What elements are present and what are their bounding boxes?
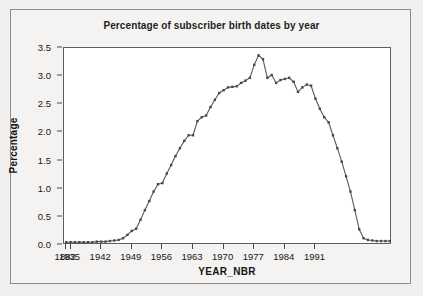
- x-axis-tick-label: 1977: [243, 251, 264, 262]
- x-axis-tick-mark: [65, 244, 66, 249]
- x-axis-tick-label: 1991: [304, 251, 325, 262]
- series-marker: [201, 116, 203, 118]
- x-axis: 1882193519421949195619631970197719841991: [63, 244, 391, 266]
- y-axis-tick-label: 0.0: [38, 239, 51, 250]
- y-axis-tick-label: 3.0: [38, 70, 51, 81]
- y-axis-tick-label: 1.5: [38, 154, 51, 165]
- y-axis-tick-mark: [57, 244, 62, 245]
- series-marker: [131, 230, 133, 232]
- y-axis-tick-mark: [57, 215, 62, 216]
- series-marker: [152, 190, 154, 192]
- series-marker: [288, 77, 290, 79]
- chart-page: Percentage of subscriber birth dates by …: [0, 0, 423, 296]
- y-axis-tick-label: 0.5: [38, 210, 51, 221]
- series-plot: [64, 48, 392, 245]
- series-marker: [297, 91, 299, 93]
- x-axis-tick-mark: [161, 244, 162, 249]
- series-marker: [354, 209, 356, 211]
- series-marker: [375, 240, 377, 242]
- y-axis-tick-label: 2.0: [38, 126, 51, 137]
- x-axis-tick-mark: [100, 244, 101, 249]
- x-axis-tick-label: 1984: [273, 251, 294, 262]
- series-marker: [249, 77, 251, 79]
- x-axis-tick-mark: [192, 244, 193, 249]
- series-marker: [367, 239, 369, 241]
- series-marker: [262, 58, 264, 60]
- y-axis-tick-mark: [57, 103, 62, 104]
- chart-title: Percentage of subscriber birth dates by …: [0, 20, 423, 31]
- series-marker: [236, 85, 238, 87]
- x-axis-tick-mark: [314, 244, 315, 249]
- y-axis-tick-mark: [57, 187, 62, 188]
- series-marker: [323, 116, 325, 118]
- series-marker: [389, 240, 391, 242]
- series-marker: [306, 83, 308, 85]
- series-marker: [122, 237, 124, 239]
- series-marker: [100, 240, 102, 242]
- series-marker: [244, 79, 246, 81]
- series-marker: [214, 99, 216, 101]
- series-marker: [144, 209, 146, 211]
- plot-area: [63, 47, 391, 244]
- x-axis-title: YEAR_NBR: [63, 266, 391, 277]
- x-axis-tick-mark: [284, 244, 285, 249]
- x-axis-tick-label: 1942: [90, 251, 111, 262]
- series-marker: [170, 164, 172, 166]
- series-marker: [139, 218, 141, 220]
- series-marker: [196, 120, 198, 122]
- series-marker: [349, 190, 351, 192]
- series-marker: [336, 147, 338, 149]
- series-line: [66, 55, 390, 242]
- series-marker: [319, 108, 321, 110]
- series-marker: [240, 82, 242, 84]
- series-marker: [362, 237, 364, 239]
- series-marker: [148, 200, 150, 202]
- x-axis-tick-label: 1935: [59, 251, 80, 262]
- x-axis-tick-label: 1963: [181, 251, 202, 262]
- series-marker: [271, 74, 273, 76]
- series-marker: [117, 239, 119, 241]
- y-axis-tick-label: 1.0: [38, 182, 51, 193]
- series-marker: [380, 240, 382, 242]
- series-marker: [310, 85, 312, 87]
- series-marker: [104, 240, 106, 242]
- series-marker: [275, 82, 277, 84]
- series-marker: [284, 78, 286, 80]
- series-marker: [187, 134, 189, 136]
- x-axis-tick-mark: [131, 244, 132, 249]
- series-marker: [126, 234, 128, 236]
- series-marker: [257, 54, 259, 56]
- series-marker: [218, 92, 220, 94]
- series-marker: [209, 106, 211, 108]
- series-marker: [253, 64, 255, 66]
- series-marker: [192, 134, 194, 136]
- series-marker: [109, 240, 111, 242]
- series-marker: [301, 86, 303, 88]
- y-axis-tick-label: 3.5: [38, 42, 51, 53]
- series-marker: [227, 86, 229, 88]
- x-axis-tick-mark: [223, 244, 224, 249]
- series-marker: [345, 175, 347, 177]
- series-marker: [327, 121, 329, 123]
- x-axis-tick-label: 1956: [151, 251, 172, 262]
- series-marker: [96, 240, 98, 242]
- series-marker: [174, 155, 176, 157]
- series-marker: [341, 161, 343, 163]
- series-marker: [332, 134, 334, 136]
- series-marker: [358, 228, 360, 230]
- y-axis: 0.00.51.01.52.02.53.03.5: [0, 47, 63, 244]
- y-axis-tick-mark: [57, 131, 62, 132]
- series-marker: [279, 79, 281, 81]
- series-marker: [222, 89, 224, 91]
- series-marker: [266, 77, 268, 79]
- series-marker: [205, 114, 207, 116]
- series-marker: [371, 239, 373, 241]
- series-marker: [113, 239, 115, 241]
- x-axis-tick-label: 1949: [120, 251, 141, 262]
- series-marker: [231, 86, 233, 88]
- x-axis-tick-label: 1970: [212, 251, 233, 262]
- y-axis-tick-label: 2.5: [38, 98, 51, 109]
- series-marker: [157, 183, 159, 185]
- series-marker: [292, 81, 294, 83]
- x-axis-tick-mark: [70, 244, 71, 249]
